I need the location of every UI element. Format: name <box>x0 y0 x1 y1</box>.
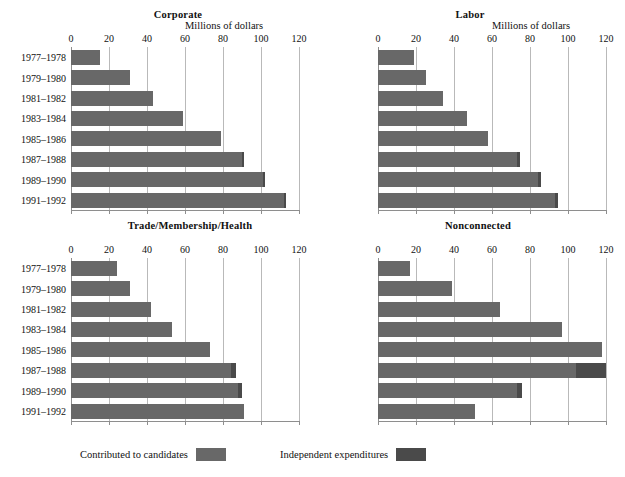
x-tick-label: 100 <box>561 244 576 255</box>
legend-item-contributed: Contributed to candidates <box>80 448 226 461</box>
x-tick-label: 20 <box>411 244 421 255</box>
bar-segment-contributed <box>378 322 562 337</box>
figure-root: CorporateMillions of dollars020406080100… <box>0 0 625 477</box>
gridline <box>530 258 531 421</box>
x-tick-label: 120 <box>599 244 614 255</box>
bar-segment-contributed <box>378 363 576 378</box>
bar-segment-contributed <box>378 383 517 398</box>
gridline <box>568 258 569 421</box>
panel-title: Nonconnected <box>445 220 511 231</box>
legend-label: Contributed to candidates <box>80 449 188 460</box>
bar-segment-contributed <box>378 342 602 357</box>
bar-segment-contributed <box>378 261 410 276</box>
bar <box>378 383 522 398</box>
bar-segment-contributed <box>378 302 500 317</box>
bar <box>378 363 606 378</box>
bar <box>378 404 475 419</box>
bar <box>378 342 602 357</box>
bar <box>378 302 500 317</box>
x-tick-label: 60 <box>487 244 497 255</box>
x-axis-line <box>378 421 606 422</box>
bar-segment-contributed <box>378 404 475 419</box>
x-tick-label: 40 <box>449 244 459 255</box>
bar <box>378 281 452 296</box>
x-tick-label: 0 <box>376 244 381 255</box>
legend-item-independent: Independent expenditures <box>280 448 426 461</box>
legend-swatch <box>196 448 226 461</box>
x-tickmark <box>606 421 607 425</box>
bar <box>378 322 562 337</box>
bar-segment-independent <box>517 383 523 398</box>
chart-panel-bottom-right: Nonconnected020406080100120 <box>0 0 625 477</box>
bar <box>378 261 410 276</box>
chart-legend: Contributed to candidatesIndependent exp… <box>40 446 585 468</box>
bar-segment-contributed <box>378 281 452 296</box>
x-tick-label: 80 <box>525 244 535 255</box>
legend-label: Independent expenditures <box>280 449 388 460</box>
gridline <box>606 258 607 421</box>
bar-segment-independent <box>576 363 606 378</box>
legend-swatch <box>396 448 426 461</box>
